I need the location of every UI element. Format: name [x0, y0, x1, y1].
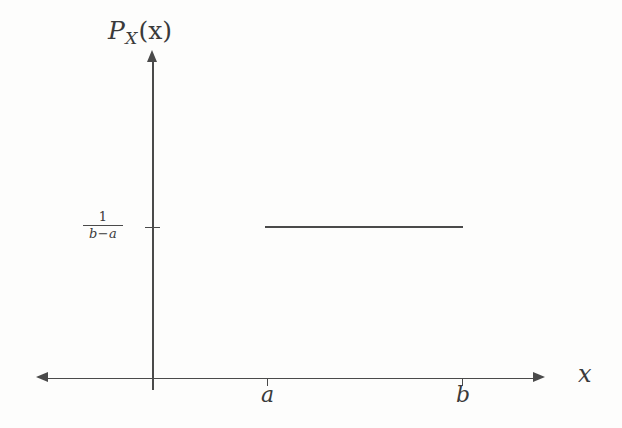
x-axis-line	[42, 378, 539, 380]
y-axis-line	[152, 58, 154, 390]
y-axis-label-argument: (x)	[138, 16, 172, 45]
y-tick-label-density: 1 b−a	[73, 210, 133, 241]
y-axis-arrowhead-icon	[147, 50, 157, 62]
uniform-distribution-figure: PX(x) x a b 1 b−a	[0, 0, 622, 428]
x-axis-arrowhead-right-icon	[533, 372, 545, 382]
x-tick-label-b: b	[456, 384, 470, 406]
y-axis-label-subscript: X	[125, 28, 137, 48]
x-tick-label-a: a	[261, 384, 274, 406]
uniform-density-segment	[265, 226, 463, 228]
y-axis-tick-density	[145, 227, 160, 229]
x-axis-label: x	[578, 362, 592, 386]
fraction-numerator: 1	[73, 210, 133, 225]
y-axis-label-base: P	[108, 16, 125, 45]
y-axis-label: PX(x)	[108, 18, 172, 47]
fraction-denominator: b−a	[73, 226, 133, 241]
x-axis-arrowhead-left-icon	[36, 372, 48, 382]
